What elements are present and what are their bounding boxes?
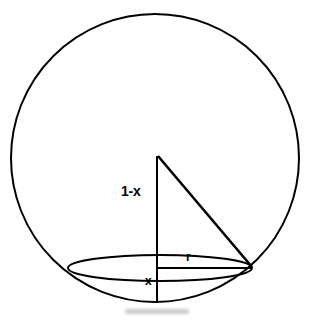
- sphere-outline-circle: [11, 14, 299, 302]
- height-label: 1-x: [121, 184, 141, 198]
- hypotenuse-line: [158, 156, 252, 267]
- cropped-caption-smudge: [125, 309, 189, 314]
- figure-container: 1-x r x: [0, 0, 313, 324]
- geometry-diagram-svg: [0, 0, 313, 324]
- radius-label: r: [186, 251, 191, 263]
- cap-height-label: x: [145, 275, 152, 287]
